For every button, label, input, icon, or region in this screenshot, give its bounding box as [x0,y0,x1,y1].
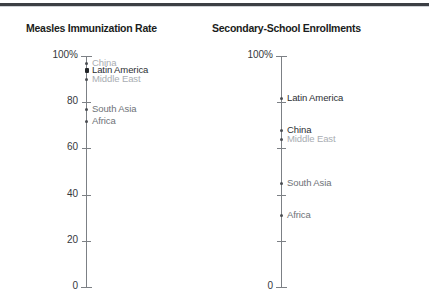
y-axis-tick-label: 60 [24,141,78,152]
data-point-marker [280,182,283,185]
chart-panel-measles-immunization: Measles Immunization Rate 100%806040200C… [0,0,215,304]
data-point-marker [280,214,283,217]
y-axis-tick-label: 80 [24,95,78,106]
data-point-label: Middle East [92,73,141,84]
y-axis-line [86,56,87,288]
y-axis-tick-label: 20 [24,234,78,245]
data-point-marker [85,78,88,81]
y-axis-tick-label: 0 [24,280,78,291]
data-point-label: Middle East [287,133,336,144]
data-point-marker [280,129,283,132]
y-axis-tick [276,287,287,288]
y-axis-tick [277,241,286,242]
data-point-marker [85,108,88,111]
y-axis-tick [276,56,287,57]
y-axis-tick [82,102,91,103]
chart-title-right: Secondary-School Enrollments [212,22,361,34]
data-point-marker [280,138,283,141]
y-axis-tick [82,195,91,196]
y-axis-tick [82,241,91,242]
data-point-marker [85,68,89,73]
data-point-marker [85,62,88,65]
y-axis-tick-label: 100% [24,49,78,60]
y-axis-tick [277,148,286,149]
y-axis-line [281,56,282,288]
y-axis-tick [82,148,91,149]
y-axis-tick [81,287,92,288]
chart-panel-secondary-school-enrollments: Secondary-School Enrollments 100%0Latin … [215,0,429,304]
data-point-label: Latin America [287,92,343,103]
y-axis-tick [81,56,92,57]
y-axis-tick-label: 0 [219,280,273,291]
data-point-label: Africa [92,115,116,126]
y-axis-tick [277,195,286,196]
figure-root: Measles Immunization Rate 100%806040200C… [0,0,429,304]
y-axis-tick [277,102,286,103]
data-point-label: Africa [287,209,311,220]
y-axis-tick-label: 100% [219,49,273,60]
data-point-label: South Asia [287,177,331,188]
data-point-marker [85,120,88,123]
chart-title-left: Measles Immunization Rate [26,22,157,34]
y-axis-tick-label: 40 [24,188,78,199]
data-point-marker [280,97,283,100]
data-point-label: South Asia [92,103,136,114]
